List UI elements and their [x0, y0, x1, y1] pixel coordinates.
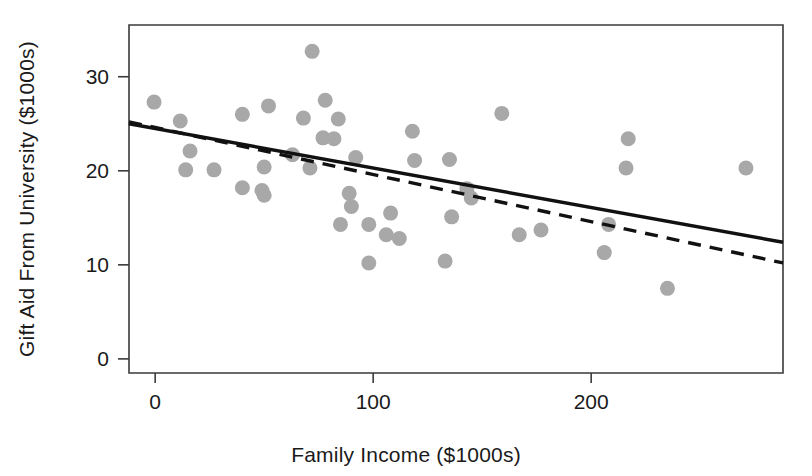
plot-frame — [129, 25, 783, 373]
x-axis-title: Family Income ($1000s) — [291, 443, 521, 466]
alternative-fit-dashed — [129, 122, 783, 263]
data-point — [342, 186, 357, 201]
data-point — [302, 160, 317, 175]
data-point — [621, 131, 636, 146]
regression-lines — [129, 122, 783, 263]
data-point — [383, 206, 398, 221]
data-point — [183, 144, 198, 159]
data-point — [597, 245, 612, 260]
x-axis-tick-marks — [155, 373, 591, 383]
x-axis-tick-labels: 0100200 — [149, 390, 608, 413]
plot-canvas: 0100200 0102030 Family Income ($1000s) G… — [0, 0, 812, 476]
data-point — [207, 162, 222, 177]
scatter-points — [147, 44, 754, 296]
data-point — [534, 223, 549, 238]
data-point — [235, 180, 250, 195]
x-tick-label: 0 — [149, 390, 161, 413]
data-point — [392, 231, 407, 246]
data-point — [344, 199, 359, 214]
y-tick-label: 30 — [86, 65, 109, 88]
y-axis-tick-labels: 0102030 — [86, 65, 109, 370]
data-point — [405, 124, 420, 139]
data-point — [438, 254, 453, 269]
data-point — [257, 188, 272, 203]
data-point — [512, 227, 527, 242]
data-point — [305, 44, 320, 59]
y-axis-tick-marks — [118, 77, 129, 359]
data-point — [619, 160, 634, 175]
y-tick-label: 20 — [86, 159, 109, 182]
x-tick-label: 100 — [356, 390, 391, 413]
data-point — [444, 209, 459, 224]
data-point — [738, 160, 753, 175]
data-point — [257, 160, 272, 175]
data-point — [333, 217, 348, 232]
data-point — [379, 227, 394, 242]
x-tick-label: 200 — [574, 390, 609, 413]
y-tick-label: 0 — [97, 347, 109, 370]
data-point — [442, 152, 457, 167]
data-point — [326, 131, 341, 146]
data-point — [173, 113, 188, 128]
data-point — [361, 217, 376, 232]
data-point — [261, 98, 276, 113]
data-point — [407, 153, 422, 168]
data-point — [296, 111, 311, 126]
data-point — [331, 112, 346, 127]
data-point — [178, 162, 193, 177]
data-point — [147, 95, 162, 110]
data-point — [494, 106, 509, 121]
scatterplot-figure: 0100200 0102030 Family Income ($1000s) G… — [0, 0, 812, 476]
y-tick-label: 10 — [86, 253, 109, 276]
y-axis-title: Gift Aid From University ($1000s) — [15, 41, 38, 357]
data-point — [660, 281, 675, 296]
data-point — [361, 255, 376, 270]
data-point — [235, 107, 250, 122]
data-point — [318, 93, 333, 108]
